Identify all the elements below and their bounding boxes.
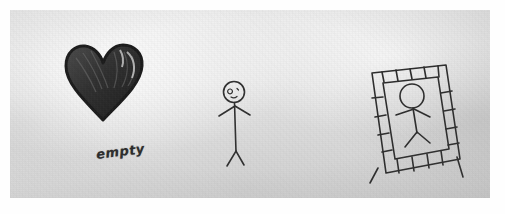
photographed-paper: empty Biggest xyxy=(10,10,490,198)
stick-figure-icon xyxy=(205,70,295,180)
drawing-photo-canvas: empty Biggest xyxy=(0,0,505,214)
baby-crib-icon xyxy=(350,55,485,198)
heart-label: empty xyxy=(95,141,145,162)
stick-figure-drawing: Biggest xyxy=(205,70,295,180)
filled-heart-icon xyxy=(56,32,152,128)
crib-drawing: Baby cribe xyxy=(350,55,485,198)
heart-drawing: empty xyxy=(56,32,152,128)
